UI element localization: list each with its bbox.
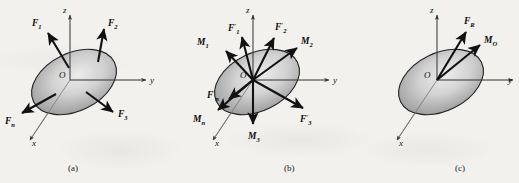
- panel-a-y-label: y: [149, 75, 154, 85]
- panel-a-origin-label: O: [59, 70, 66, 80]
- panel-b-moment-M3-label: M3: [247, 131, 260, 143]
- panel-b-x-label: x: [214, 138, 219, 148]
- panel-a-body-disc: [21, 36, 127, 128]
- panel-c-resultant-force-FR-label: FR: [463, 16, 475, 28]
- panel-b-moment-M1-label: M1: [196, 37, 209, 49]
- panel-c-x-label: x: [398, 138, 403, 148]
- panel-b-force-F2-prime-label: F′2: [274, 21, 287, 34]
- panel-a-force-F2-label: F2: [107, 18, 118, 30]
- panel-b-force-F3-prime-label: F′3: [299, 113, 312, 126]
- panel-b-y-label: y: [332, 75, 337, 85]
- panel-b-force-F1-prime-label: F′1: [227, 22, 239, 35]
- panel-a-x-label: x: [31, 138, 36, 148]
- panel-c-caption: (c): [455, 163, 465, 173]
- mechanics-figure: z y x O F1 F2 F3 Fn (a): [0, 0, 519, 183]
- panel-b-moment-Mn-label: Mn: [192, 114, 205, 126]
- panel-a-force-F3-label: F3: [117, 109, 128, 121]
- panel-c-body-disc: [388, 36, 494, 128]
- panel-b: z y x O F′1 F′2 F′3 F′n: [192, 5, 337, 173]
- panel-c: z y x O FR MO (c): [388, 5, 513, 173]
- panel-b-z-label: z: [245, 5, 250, 15]
- panel-c-resultant-moment-MO-label: MO: [483, 35, 497, 47]
- panel-c-z-label: z: [429, 5, 434, 15]
- panel-c-origin-label: O: [424, 70, 431, 80]
- panel-b-caption: (b): [284, 163, 295, 173]
- panel-a-force-F1-label: F1: [31, 18, 42, 30]
- panel-a-caption: (a): [68, 163, 78, 173]
- panel-b-moment-M2-label: M2: [300, 36, 313, 48]
- panel-c-y-label: y: [507, 75, 512, 85]
- figure-svg: z y x O F1 F2 F3 Fn (a): [0, 0, 519, 183]
- panel-a: z y x O F1 F2 F3 Fn (a): [4, 5, 154, 173]
- panel-a-z-label: z: [62, 5, 67, 15]
- panel-a-force-Fn-label: Fn: [4, 116, 15, 128]
